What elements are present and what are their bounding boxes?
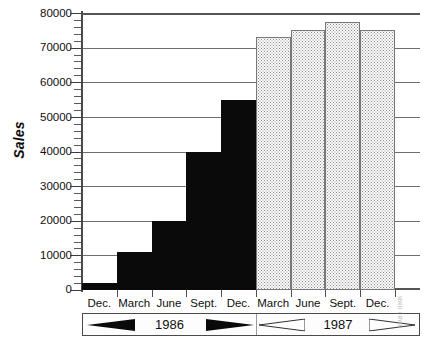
y-tick-0	[70, 290, 81, 291]
y-tick-34000	[74, 172, 81, 173]
y-tick-18000	[74, 228, 81, 229]
y-tick-label-70000: 70000	[40, 42, 72, 53]
y-tick-label-20000: 20000	[40, 215, 72, 226]
x-axis-labels: Dec.MarchJuneSept.Dec.MarchJuneSept.Dec.	[0, 297, 430, 311]
bar-Dec-8	[360, 30, 395, 290]
y-tick-10000	[70, 255, 81, 256]
bar-Dec-4	[221, 100, 256, 290]
y-tick-74000	[74, 34, 81, 35]
period-band-1986: 1986	[83, 314, 256, 335]
y-tick-2000	[74, 283, 81, 284]
y-tick-26000	[74, 200, 81, 201]
bar-series	[82, 13, 395, 290]
y-tick-58000	[74, 89, 81, 90]
y-tick-28000	[74, 193, 81, 194]
y-tick-label-30000: 30000	[40, 181, 72, 192]
y-tick-54000	[74, 103, 81, 104]
x-tick-3	[186, 290, 187, 297]
x-tick-7	[325, 290, 326, 297]
bar-June-2	[152, 221, 187, 290]
y-tick-76000	[74, 27, 81, 28]
period-band-1987: 1987	[257, 314, 419, 335]
y-tick-80000	[70, 13, 81, 14]
y-tick-24000	[74, 207, 81, 208]
y-tick-label-60000: 60000	[40, 77, 72, 88]
y-tick-62000	[74, 75, 81, 76]
y-tick-68000	[74, 55, 81, 56]
x-tick-1	[117, 290, 118, 297]
y-tick-14000	[74, 242, 81, 243]
y-tick-label-40000: 40000	[40, 146, 72, 157]
y-tick-44000	[74, 138, 81, 139]
y-tick-22000	[74, 214, 81, 215]
side-watermark: MWD CRWD	[397, 296, 403, 346]
y-tick-48000	[74, 124, 81, 125]
y-tick-label-50000: 50000	[40, 112, 72, 123]
arrow-right-hollow-icon	[369, 318, 415, 331]
bar-Sept-3	[186, 152, 221, 291]
y-tick-20000	[70, 221, 81, 222]
x-label-8: Dec.	[354, 297, 402, 310]
bar-Dec-0	[82, 283, 117, 290]
y-tick-36000	[74, 165, 81, 166]
y-tick-50000	[70, 117, 81, 118]
sales-bar-chart: Sales 80000 70000 60000 50000 40000 3000…	[0, 0, 430, 348]
y-tick-label-80000: 80000	[40, 8, 72, 19]
x-tick-9	[395, 290, 396, 297]
bar-March-5	[256, 37, 291, 290]
y-tick-8000	[74, 262, 81, 263]
y-tick-16000	[74, 235, 81, 236]
y-tick-4000	[74, 276, 81, 277]
y-tick-30000	[70, 186, 81, 187]
y-tick-70000	[70, 48, 81, 49]
bar-June-6	[291, 30, 326, 290]
bar-March-1	[117, 252, 152, 290]
y-tick-12000	[74, 248, 81, 249]
y-tick-label-10000: 10000	[40, 250, 72, 261]
x-tick-5	[256, 290, 257, 297]
y-tick-72000	[74, 41, 81, 42]
x-tick-4	[221, 290, 222, 297]
y-tick-46000	[74, 131, 81, 132]
y-tick-42000	[74, 145, 81, 146]
y-tick-56000	[74, 96, 81, 97]
y-tick-66000	[74, 61, 81, 62]
y-tick-32000	[74, 179, 81, 180]
y-tick-78000	[74, 20, 81, 21]
arrow-right-solid-icon	[206, 318, 254, 331]
y-tick-40000	[70, 152, 81, 153]
y-tick-38000	[74, 158, 81, 159]
y-tick-64000	[74, 68, 81, 69]
y-tick-60000	[70, 82, 81, 83]
x-tick-2	[152, 290, 153, 297]
bar-Sept-7	[325, 22, 360, 290]
y-tick-52000	[74, 110, 81, 111]
y-axis-labels: 80000 70000 60000 50000 40000 30000 2000…	[0, 0, 76, 348]
y-tick-6000	[74, 269, 81, 270]
period-band-row: 1986 1987	[82, 313, 420, 336]
plot-area	[82, 13, 395, 290]
x-tick-6	[291, 290, 292, 297]
x-tick-8	[360, 290, 361, 297]
